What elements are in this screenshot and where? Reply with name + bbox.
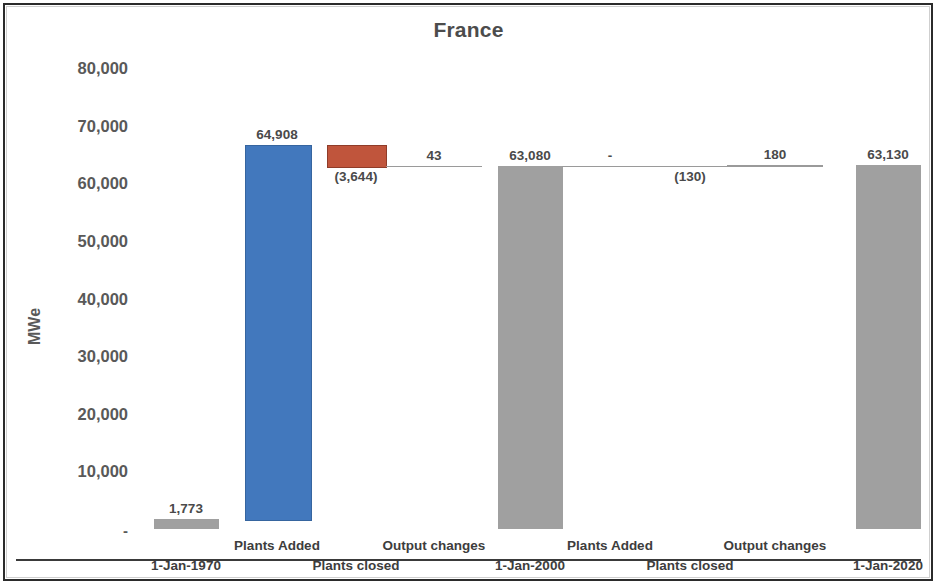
waterfall-connector-decrease (642, 166, 738, 168)
y-axis-tick-label: 60,000 (28, 174, 128, 193)
waterfall-bar-total (154, 519, 219, 529)
y-axis-tick-label: 30,000 (28, 347, 128, 366)
data-label: 43 (426, 148, 441, 163)
y-axis-tick-label: 80,000 (28, 59, 128, 78)
y-axis-tick-label: 50,000 (28, 231, 128, 250)
data-label: 1,773 (169, 501, 203, 516)
waterfall-bar-total (856, 165, 921, 529)
waterfall-bar-increase (245, 145, 312, 521)
data-label: 63,130 (867, 147, 908, 162)
x-axis-category-label: Output changes (383, 538, 486, 553)
chart-title: France (0, 18, 937, 42)
data-label: 64,908 (256, 127, 297, 142)
data-label: 63,080 (509, 148, 550, 163)
data-label: (3,644) (335, 169, 378, 184)
x-axis-line (16, 559, 921, 561)
y-axis-tick-label: 10,000 (28, 462, 128, 481)
data-label: (130) (674, 169, 706, 184)
data-label: 180 (764, 147, 787, 162)
y-axis-tick-label: 40,000 (28, 289, 128, 308)
waterfall-connector-increase (727, 165, 823, 167)
x-axis-category-label: Plants Added (567, 538, 653, 553)
y-axis-title: MWe (26, 308, 44, 345)
x-axis-category-label: Output changes (724, 538, 827, 553)
x-axis-category-label: Plants Added (234, 538, 320, 553)
waterfall-connector-increase (386, 166, 482, 168)
data-label: - (608, 148, 613, 163)
y-axis-tick-label: 20,000 (28, 404, 128, 423)
waterfall-bar-decrease (327, 145, 387, 168)
waterfall-chart: France MWe -10,00020,00030,00040,00050,0… (0, 0, 937, 585)
y-axis-tick-label: - (28, 522, 128, 539)
y-axis-tick-label: 70,000 (28, 116, 128, 135)
chart-frame: France MWe -10,00020,00030,00040,00050,0… (0, 0, 937, 585)
waterfall-bar-total (498, 166, 563, 529)
